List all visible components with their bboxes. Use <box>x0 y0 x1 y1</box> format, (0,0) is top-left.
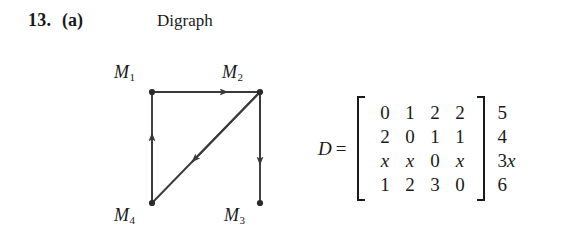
digraph-caption: Digraph <box>157 11 213 31</box>
matrix-row-annotation-3-value: 6 <box>497 174 507 195</box>
graph-node-label-m3-subscript: 3 <box>240 214 246 226</box>
matrix-cell-r3c1: 2 <box>397 173 422 197</box>
matrix-cell-r2c1: x <box>397 149 422 173</box>
graph-node-label-m1-subscript: 1 <box>130 71 136 83</box>
matrix-right-bracket-top-serif <box>477 96 485 98</box>
matrix-equals-sign: = <box>336 138 347 160</box>
graph-node-label-m2-text: M <box>222 62 237 82</box>
matrix-left-bracket-top-serif <box>357 96 365 98</box>
digraph-figure: M1 M2 M3 M4 <box>100 55 300 240</box>
matrix-cell-r0c2: 2 <box>422 101 447 125</box>
matrix-cell-r2c2: 0 <box>422 149 447 173</box>
matrix-left-bracket <box>357 96 367 201</box>
graph-node-m2 <box>257 89 263 95</box>
matrix-row-annotation-2: 3x <box>497 149 515 173</box>
matrix-cell-r3c3: 0 <box>447 173 472 197</box>
graph-node-label-m1: M1 <box>114 62 135 83</box>
matrix-cell-r2c3: x <box>447 149 472 173</box>
matrix-name-label: D <box>318 138 332 160</box>
matrix-row-annotation-3: 6 <box>497 173 515 197</box>
matrix-row-annotation-2-value: 3 <box>497 150 507 171</box>
matrix-row-annotation-0: 5 <box>497 101 515 125</box>
graph-node-label-m4: M4 <box>114 205 135 226</box>
problem-number: 13. <box>28 10 51 31</box>
graph-node-m3 <box>257 200 263 206</box>
graph-node-m4 <box>149 200 155 206</box>
graph-node-label-m1-text: M <box>114 62 129 82</box>
matrix-row-annotation-1: 4 <box>497 125 515 149</box>
graph-node-m1 <box>149 89 155 95</box>
matrix-block: D = 0 1 2 2 2 0 1 1 x x 0 x 1 2 3 0 5 4 … <box>318 96 515 201</box>
matrix-cell-r3c0: 1 <box>372 173 397 197</box>
matrix-cell-r2c0: x <box>372 149 397 173</box>
matrix-row-annotations: 5 4 3x 6 <box>497 96 515 201</box>
matrix-right-bracket-bottom-serif <box>477 199 485 201</box>
graph-node-label-m2: M2 <box>222 62 243 83</box>
graph-node-label-m3-text: M <box>224 205 239 225</box>
matrix-cell-r1c1: 0 <box>397 125 422 149</box>
matrix-grid: 0 1 2 2 2 0 1 1 x x 0 x 1 2 3 0 <box>367 96 475 201</box>
problem-part-label: (a) <box>62 10 83 31</box>
matrix-left-bracket-bottom-serif <box>357 199 365 201</box>
matrix-cell-r1c0: 2 <box>372 125 397 149</box>
matrix-cell-r3c2: 3 <box>422 173 447 197</box>
matrix-row-annotation-2-symbol: x <box>507 150 515 171</box>
matrix-row-annotation-0-value: 5 <box>497 102 507 123</box>
matrix-cell-r0c1: 1 <box>397 101 422 125</box>
matrix-right-bracket <box>475 96 485 201</box>
graph-node-label-m2-subscript: 2 <box>238 71 244 83</box>
edge-m2-to-m4-arrow <box>192 92 260 162</box>
matrix-cell-r0c0: 0 <box>372 101 397 125</box>
matrix-cell-r0c3: 2 <box>447 101 472 125</box>
matrix-cell-r1c3: 1 <box>447 125 472 149</box>
matrix-row-annotation-1-value: 4 <box>497 126 507 147</box>
matrix-cell-r1c2: 1 <box>422 125 447 149</box>
graph-node-label-m3: M3 <box>224 205 245 226</box>
graph-node-label-m4-subscript: 4 <box>130 214 136 226</box>
graph-node-label-m4-text: M <box>114 205 129 225</box>
